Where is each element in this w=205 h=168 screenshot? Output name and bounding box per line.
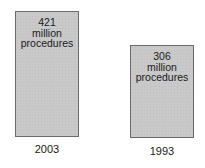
category-label-1993: 1993 — [130, 145, 194, 157]
bar-unit-line2: procedures — [131, 72, 193, 83]
bar-2003: 421 million procedures — [15, 11, 79, 137]
bar-value: 306 — [131, 51, 193, 62]
bar-1993: 306 million procedures — [130, 45, 194, 138]
bar-value: 421 — [16, 17, 78, 28]
category-label-2003: 2003 — [15, 143, 79, 155]
bar-unit-line2: procedures — [16, 38, 78, 49]
bar-label-2003: 421 million procedures — [16, 17, 78, 49]
bar-label-1993: 306 million procedures — [131, 51, 193, 83]
